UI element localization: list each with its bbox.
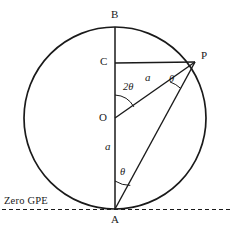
figure-canvas: B C O P A 2θ θ θ a a Zero GPE bbox=[0, 0, 233, 234]
length-label-radius-OA: a bbox=[105, 141, 111, 152]
zero-gpe-label: Zero GPE bbox=[4, 196, 48, 207]
point-label-O: O bbox=[99, 112, 107, 123]
point-label-C: C bbox=[100, 56, 107, 67]
angle-label-2theta: 2θ bbox=[123, 82, 133, 93]
angle-label-theta-at-A: θ bbox=[120, 167, 125, 178]
point-label-B: B bbox=[111, 9, 118, 20]
angle-label-theta-at-P: θ bbox=[169, 74, 174, 85]
angle-arc-2theta-at-O bbox=[115, 95, 134, 107]
point-label-P: P bbox=[201, 50, 207, 61]
length-label-radius-OP: a bbox=[145, 72, 151, 83]
point-label-A: A bbox=[111, 214, 119, 225]
segment-chord-CP bbox=[115, 62, 195, 63]
